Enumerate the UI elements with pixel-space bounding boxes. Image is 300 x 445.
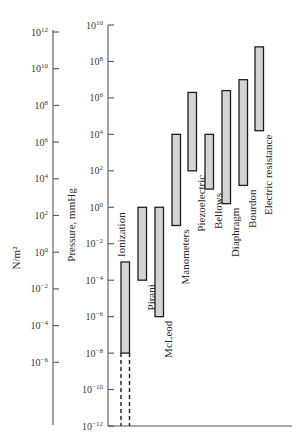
right-tick-label: 10−8 <box>86 347 104 359</box>
bar-label: Bourdon <box>246 189 258 228</box>
right-tick-label: 102 <box>90 164 104 176</box>
right-tick-label: 106 <box>90 91 104 103</box>
right-tick-label: 10−6 <box>86 310 104 322</box>
left-tick-label: 1012 <box>31 26 49 38</box>
right-tick-label: 10−4 <box>86 274 104 286</box>
left-tick-label: 106 <box>35 136 49 148</box>
left-tick-label: 104 <box>35 172 49 184</box>
right-axis-title: Pressure, mmHg <box>65 188 77 262</box>
right-tick-label: 104 <box>90 128 104 140</box>
left-axis: 1012101010810610410210010−210−410−6 N/m² <box>10 26 59 426</box>
bar-label: McLeod <box>162 320 174 358</box>
pressure-range-chart: 1012101010810610410210010−210−410−6 N/m²… <box>0 0 300 445</box>
bar-electric-resistance: Electric resistance <box>255 47 274 215</box>
bar-piezoelectric: Piezoelectric <box>188 92 207 231</box>
right-tick-label: 108 <box>90 55 104 67</box>
bar-label: Manometers <box>179 230 191 285</box>
range-bars: IonizationPiraniMcLeodManometersPiezoele… <box>115 47 274 426</box>
left-axis-title: N/m² <box>10 246 22 270</box>
left-tick-label: 1010 <box>31 62 49 74</box>
bar-pirani: Pirani <box>138 207 157 310</box>
bar-bellows: Bellows <box>205 134 224 229</box>
bar-mcleod: McLeod <box>155 207 174 358</box>
left-tick-label: 108 <box>35 99 49 111</box>
left-tick-label: 10−4 <box>31 319 49 331</box>
bar-diaphragm: Diaphragm <box>222 91 241 257</box>
bar-label: Ionization <box>115 212 127 257</box>
left-tick-label: 102 <box>35 209 49 221</box>
left-tick-label: 10−2 <box>31 282 49 294</box>
bar-ionization: Ionization <box>115 212 130 426</box>
right-tick-label: 10−10 <box>82 383 103 395</box>
right-tick-label: 100 <box>90 201 104 213</box>
right-tick-label: 10−12 <box>82 420 103 432</box>
bar-label: Diaphragm <box>229 207 241 257</box>
bar-label: Electric resistance <box>262 135 274 215</box>
left-tick-label: 10−6 <box>31 356 49 368</box>
right-tick-label: 10−2 <box>86 237 104 249</box>
right-tick-label: 1010 <box>86 19 104 31</box>
left-tick-label: 100 <box>35 246 49 258</box>
